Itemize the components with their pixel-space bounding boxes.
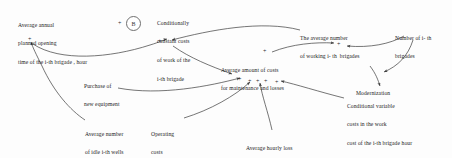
polarity-plus-amount-costs-a: + [238,76,241,82]
node-average-hourly-loss: Average hourly loss from idle j- th well [246,132,293,158]
node-line: of working i- th brigades [300,53,360,59]
node-line: Purchase of [84,83,120,89]
node-line: Average amount of costs [221,67,284,73]
node-line: constant costs [157,38,190,44]
node-conditionally-constant-costs: Conditionally constant costs of work of … [157,7,190,95]
node-line: Average hourly loss [246,145,293,151]
node-average-number-of-working-brigades: The average number of working i- th brig… [300,22,360,72]
node-line: Number of i- th [395,35,431,41]
node-line: of idle i-th wells [85,149,124,155]
node-line: Average annual [18,22,87,28]
node-line: new equipment [84,101,120,107]
node-line: The average number [300,35,360,41]
polarity-plus-amount-costs-d: + [264,78,267,84]
node-average-number-of-idle-wells: Average number of idle i-th wells катего… [85,118,124,158]
node-line: Average number [85,131,124,137]
loop-plus-sign: + [118,20,121,26]
node-line: i-th brigade [157,76,190,82]
node-avg-annual-planned-operating-time: Average annual planned opening time of t… [18,9,87,78]
polarity-plus-amount-costs-e: + [275,79,278,85]
node-line: for maintenance and losses [221,85,284,91]
balancing-loop-marker: B [126,16,141,31]
polarity-plus-constant-costs: + [158,38,161,44]
node-line: time of the i-th brigade , hour [18,59,87,65]
polarity-plus-time-node: + [28,36,31,42]
loop-letter: B [131,21,135,27]
polarity-plus-amount-costs-c: + [256,78,259,84]
node-line: Conditionally [157,20,190,26]
diagram-canvas: Average annual planned opening time of t… [0,0,452,158]
node-line: costs in the work [347,121,412,127]
link-variable-costs-to-amount [281,81,344,98]
node-operating-costs: Operating costs [151,118,174,158]
polarity-plus-amount-costs-b: + [248,78,251,84]
node-line: Operating [151,131,174,137]
polarity-plus-working-brigades: + [337,41,340,47]
node-line: of work of the [157,57,190,63]
polarity-plus-amount-costs-top: + [263,48,266,54]
node-line: cost of the i-th brigade hour [347,140,412,146]
node-purchase-of-new-equipment: Purchase of new equipment [84,70,120,120]
node-line: Conditional variable [347,103,412,109]
node-conditional-variable-costs: Conditional variable costs in the work c… [347,90,412,158]
node-line: costs [151,149,174,155]
node-line: brigades [395,53,431,59]
node-number-of-brigades: Number of i- th brigades [395,22,431,72]
link-working-brigades-to-amount [172,26,300,40]
